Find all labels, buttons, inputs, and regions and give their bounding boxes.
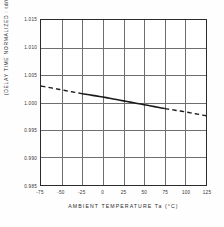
delay-time-curve xyxy=(41,86,206,116)
y-tick-label: 1.015 xyxy=(24,17,37,22)
x-tick-label: -75 xyxy=(36,190,43,195)
y-tick-label: 0.995 xyxy=(24,128,37,133)
x-tick-label: 50 xyxy=(142,190,148,195)
y-tick-label: 1.000 xyxy=(24,100,37,105)
curve-solid-segment xyxy=(82,94,165,109)
x-axis-title: AMBIENT TEMPERATURE Ta (°C) xyxy=(40,203,207,209)
x-tick-label: 25 xyxy=(121,190,127,195)
x-tick-label: 75 xyxy=(162,190,168,195)
x-tick-label: 100 xyxy=(182,190,190,195)
plot-area xyxy=(40,19,207,186)
curve-dashed-right-segment xyxy=(165,109,206,116)
y-tick-label: 0.990 xyxy=(24,156,37,161)
y-axis-title: (DELAY TIME NORMALIZED : td/tn) xyxy=(3,0,9,95)
y-tick-label: 1.010 xyxy=(24,44,37,49)
y-tick-label: 0.985 xyxy=(24,184,37,189)
x-tick-label: -25 xyxy=(78,190,85,195)
y-tick-label: 1.005 xyxy=(24,72,37,77)
data-series-layer xyxy=(41,20,206,185)
x-tick-label: -50 xyxy=(57,190,64,195)
x-axis-tick-labels: -75 -50 -25 0 25 50 75 100 125 xyxy=(40,190,207,198)
curve-dashed-left-segment xyxy=(41,86,82,94)
y-axis-title-rotator: (DELAY TIME NORMALIZED : td/tn) xyxy=(0,0,12,128)
x-tick-label: 125 xyxy=(203,190,211,195)
y-axis-title-holder: (DELAY TIME NORMALIZED : td/tn) xyxy=(0,19,12,186)
chart-figure: 1.015 1.010 1.005 1.000 0.995 0.990 0.98… xyxy=(0,0,224,227)
x-tick-label: 0 xyxy=(101,190,104,195)
